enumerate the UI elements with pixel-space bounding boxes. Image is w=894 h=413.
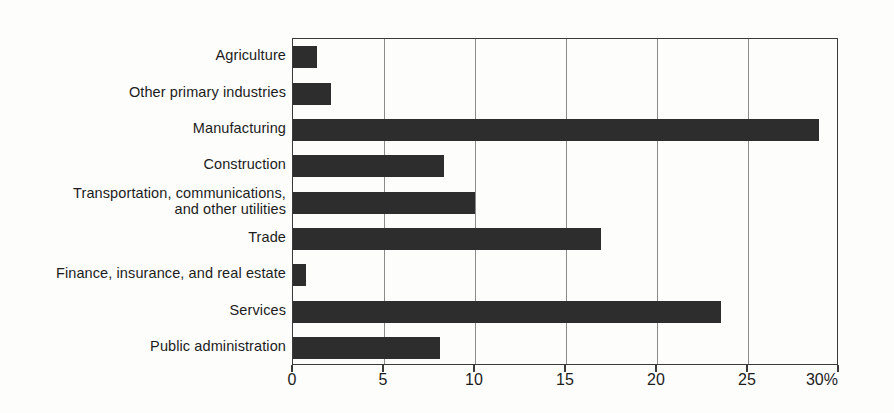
x-tick-label: 30%: [806, 371, 838, 389]
chart-figure: AgricultureOther primary industriesManuf…: [0, 0, 894, 413]
bar: [293, 264, 306, 286]
bar: [293, 228, 601, 250]
bar: [293, 46, 317, 68]
category-label-line: Finance, insurance, and real estate: [56, 265, 286, 281]
x-tick-label: 10: [465, 371, 483, 389]
category-label: Construction: [0, 157, 286, 173]
x-tick-label: 5: [379, 371, 388, 389]
category-axis-labels: AgricultureOther primary industriesManuf…: [0, 38, 286, 365]
category-label: Other primary industries: [0, 85, 286, 101]
x-tick-label: 25: [738, 371, 756, 389]
category-label-line: Transportation, communications,: [73, 185, 286, 201]
plot-area: [292, 38, 838, 365]
category-label: Services: [0, 303, 286, 319]
category-label-line: Trade: [248, 229, 286, 245]
category-label: Finance, insurance, and real estate: [0, 266, 286, 282]
category-label-line: Other primary industries: [129, 84, 286, 100]
category-label: Agriculture: [0, 48, 286, 64]
category-label: Transportation, communications,and other…: [0, 186, 286, 217]
category-label-line: and other utilities: [0, 202, 286, 218]
category-label-line: Construction: [203, 156, 286, 172]
bar: [293, 337, 440, 359]
x-tick-label: 20: [647, 371, 665, 389]
category-label: Trade: [0, 230, 286, 246]
bar: [293, 155, 444, 177]
bar: [293, 83, 331, 105]
bar: [293, 301, 721, 323]
category-label-line: Manufacturing: [193, 120, 286, 136]
bar: [293, 119, 819, 141]
gridline-25: [748, 39, 749, 364]
category-label-line: Services: [230, 302, 286, 318]
bar: [293, 192, 475, 214]
x-tick-label: 15: [556, 371, 574, 389]
category-label-line: Agriculture: [216, 47, 286, 63]
category-label-line: Public administration: [150, 338, 286, 354]
category-label: Public administration: [0, 339, 286, 355]
x-tick-label: 0: [288, 371, 297, 389]
category-label: Manufacturing: [0, 121, 286, 137]
